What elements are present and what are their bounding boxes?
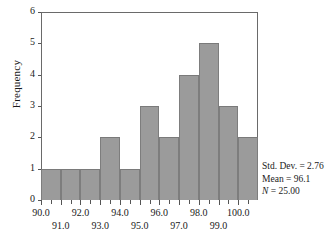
y-axis-tick-label: 0 (30, 193, 35, 204)
histogram-bar (120, 169, 140, 200)
y-axis-tick-label: 1 (30, 162, 35, 173)
y-axis-tick-label: 3 (30, 99, 35, 110)
x-axis-tick-label: 100.0 (218, 207, 258, 218)
x-axis-tick-label: 90.0 (21, 207, 61, 218)
x-axis-tick-label: 92.0 (60, 207, 100, 218)
histogram-bar (140, 106, 160, 200)
x-axis-minor-tick-mark (110, 200, 111, 204)
stats-mean: Mean = 96.1 (262, 173, 328, 186)
y-axis-tick-label: 5 (30, 36, 35, 47)
x-axis-minor-tick-mark (228, 200, 229, 204)
x-axis-tick-label: 99.0 (199, 220, 239, 231)
y-axis-ticks: 0123456 (0, 0, 42, 239)
stats-annotation: Std. Dev. = 2.76 Mean = 96.1 N = 25.00 (262, 160, 328, 198)
x-axis-minor-tick-mark (130, 200, 131, 204)
histogram-bar (100, 137, 120, 200)
histogram-bar (159, 137, 179, 200)
x-axis-tick-mark (238, 200, 239, 205)
stats-std-dev: Std. Dev. = 2.76 (262, 160, 328, 173)
x-axis-tick-mark (61, 200, 62, 205)
x-axis-tick-label: 96.0 (139, 207, 179, 218)
x-axis-minor-tick-mark (51, 200, 52, 204)
y-axis-tick-label: 4 (30, 68, 35, 79)
x-axis-minor-tick-mark (150, 200, 151, 204)
x-axis-minor-tick-mark (248, 200, 249, 204)
y-axis-tick-label: 2 (30, 130, 35, 141)
x-axis-tick-mark (120, 200, 121, 205)
y-axis-tick-label: 6 (30, 5, 35, 16)
x-axis-tick-mark (219, 200, 220, 205)
stats-n: N = 25.00 (262, 185, 328, 198)
plot-area (41, 12, 258, 200)
stats-n-value: = 25.00 (268, 186, 299, 196)
histogram-bar (199, 43, 219, 200)
histogram-figure: Frequency 0123456 90.091.092.093.094.095… (0, 0, 329, 239)
x-axis-tick-label: 91.0 (41, 220, 81, 231)
x-axis-tick-label: 95.0 (120, 220, 160, 231)
histogram-bar (219, 106, 239, 200)
histogram-bar (41, 169, 61, 200)
x-axis-tick-mark (80, 200, 81, 205)
x-axis-minor-tick-mark (189, 200, 190, 204)
x-axis-tick-mark (41, 200, 42, 205)
histogram-bar (179, 75, 199, 200)
x-axis-tick-mark (159, 200, 160, 205)
x-axis-tick-mark (179, 200, 180, 205)
x-axis-tick-label: 94.0 (100, 207, 140, 218)
histogram-bar (61, 169, 81, 200)
x-axis-minor-tick-mark (209, 200, 210, 204)
x-axis-minor-tick-mark (71, 200, 72, 204)
x-axis-tick-mark (199, 200, 200, 205)
x-axis-minor-tick-mark (169, 200, 170, 204)
x-axis-tick-mark (140, 200, 141, 205)
x-axis-tick-label: 98.0 (179, 207, 219, 218)
x-axis-tick-mark (100, 200, 101, 205)
x-axis-tick-label: 97.0 (159, 220, 199, 231)
bar-series (41, 12, 258, 200)
x-axis-minor-tick-mark (90, 200, 91, 204)
x-axis-tick-label: 93.0 (80, 220, 120, 231)
x-axis-ticks: 90.091.092.093.094.095.096.097.098.099.0… (41, 200, 258, 239)
histogram-bar (80, 169, 100, 200)
histogram-bar (238, 137, 258, 200)
